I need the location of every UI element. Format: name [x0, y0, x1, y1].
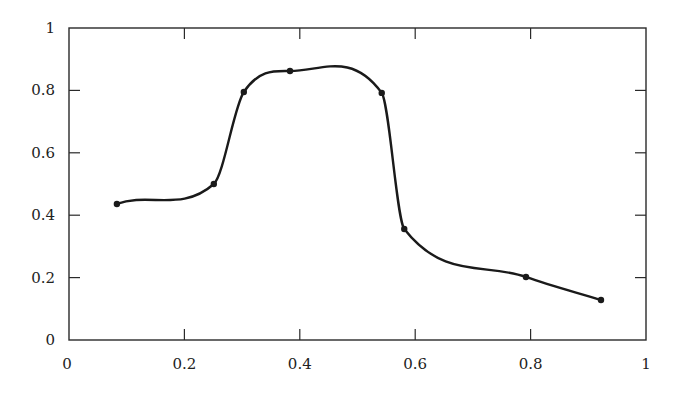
- y-tick-label: 0.2: [31, 269, 55, 287]
- plot-frame: [69, 28, 646, 340]
- y-tick-label: 0.6: [31, 144, 55, 162]
- data-point-marker: [401, 226, 407, 232]
- y-tick-label: 0: [45, 331, 55, 349]
- data-point-marker: [287, 68, 293, 74]
- data-point-marker: [523, 274, 529, 280]
- x-tick-label: 0.2: [172, 355, 196, 373]
- x-tick-label: 0.6: [403, 355, 427, 373]
- y-tick-label: 0.8: [31, 81, 55, 99]
- y-tick-label: 0.4: [31, 206, 55, 224]
- x-axis-tick-labels: 00.20.40.60.81: [62, 355, 651, 373]
- data-point-marker: [114, 201, 120, 207]
- y-axis-tick-labels: 00.20.40.60.81: [31, 19, 55, 349]
- x-tick-label: 0: [62, 355, 72, 373]
- axis-ticks: [69, 28, 646, 340]
- x-tick-label: 1: [641, 355, 651, 373]
- data-point-marker: [211, 181, 217, 187]
- data-point-marker: [241, 89, 247, 95]
- line-chart: 00.20.40.60.81 00.20.40.60.81: [0, 0, 678, 395]
- x-tick-label: 0.4: [288, 355, 312, 373]
- data-point-marker: [379, 90, 385, 96]
- data-markers: [114, 68, 605, 303]
- x-tick-label: 0.8: [519, 355, 543, 373]
- data-point-marker: [598, 297, 604, 303]
- data-curve: [117, 66, 601, 300]
- y-tick-label: 1: [45, 19, 55, 37]
